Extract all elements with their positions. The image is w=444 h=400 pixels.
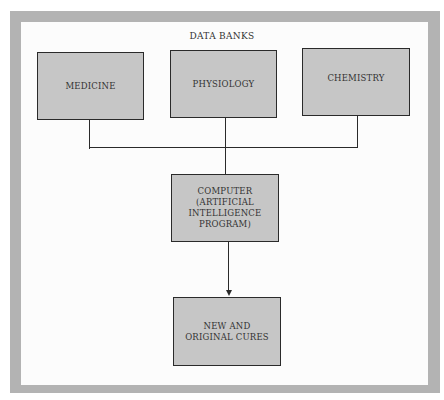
node-label: COMPUTER (ARTIFICIAL INTELLIGENCE PROGRA… bbox=[186, 186, 264, 230]
connector-chemistry bbox=[357, 116, 358, 147]
connector-medicine bbox=[89, 120, 90, 149]
arrow-down-icon bbox=[226, 290, 232, 296]
node-label: MEDICINE bbox=[65, 81, 115, 92]
diagram-title: DATA BANKS bbox=[0, 31, 444, 41]
node-label: PHYSIOLOGY bbox=[193, 79, 255, 90]
connector-physiology bbox=[225, 118, 226, 174]
node-computer: COMPUTER (ARTIFICIAL INTELLIGENCE PROGRA… bbox=[171, 174, 279, 242]
node-label: CHEMISTRY bbox=[327, 73, 384, 84]
node-chemistry: CHEMISTRY bbox=[302, 48, 410, 116]
connector-bus bbox=[89, 147, 358, 148]
node-output: NEW AND ORIGINAL CURES bbox=[173, 297, 281, 366]
node-label: NEW AND ORIGINAL CURES bbox=[182, 321, 272, 343]
node-physiology: PHYSIOLOGY bbox=[170, 50, 277, 118]
connector-to-output bbox=[228, 242, 229, 291]
node-medicine: MEDICINE bbox=[37, 52, 144, 120]
